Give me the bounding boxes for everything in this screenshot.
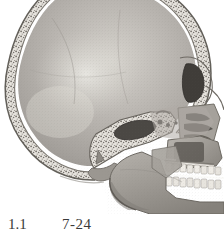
caption-left-fragment: 1.1 (8, 217, 27, 231)
page-canvas: 1.1 7-24 (0, 0, 224, 231)
figure-caption: 1.1 7-24 (0, 216, 224, 231)
caption-right-fragment: 7-24 (62, 217, 92, 231)
skull-illustration-svg (0, 0, 224, 214)
skull-sagittal-figure (0, 0, 224, 214)
